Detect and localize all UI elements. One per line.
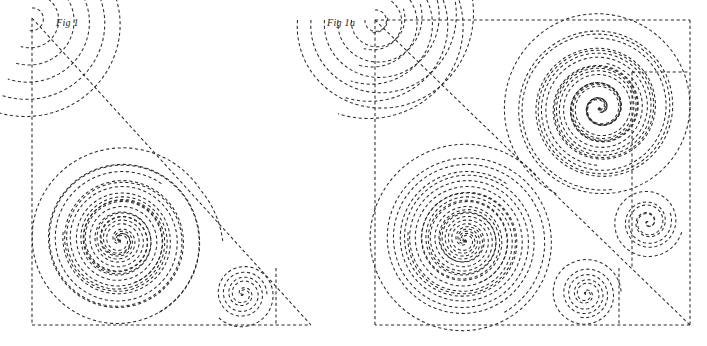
fig-1a-large-spiral-upper-right (504, 14, 690, 194)
fig-1-small-spiral-turn-1 (223, 272, 267, 311)
fig-1-large-spiral-turn-1 (48, 164, 199, 313)
fig-1a-corner-arc-3 (351, 0, 433, 84)
fig-1-graphic (0, 0, 311, 327)
fig-1a-small-spiral-bottom-turn-1 (569, 275, 608, 318)
fig-1a-corner-arc-4 (344, 0, 447, 101)
fig-1a-corner-arc-5 (338, 0, 463, 118)
figure-page: Fig 1 Fig 1a (0, 0, 707, 346)
fig-1a-graphic (297, 0, 690, 331)
fig-1-caption: Fig 1 (56, 17, 79, 28)
fig-1a-large-spiral-lower-left-turn-2 (400, 171, 522, 301)
fig-1a-corner-arc-1 (364, 0, 402, 50)
fig-1a-small-spiral-right (615, 191, 682, 256)
fig-1a-large-spiral-upper-right-turn-4 (564, 63, 643, 147)
fig-1-small-spiral (218, 267, 273, 327)
fig-1a-small-spiral-bottom (553, 260, 621, 325)
fig-1-corner-arc-2 (14, 0, 74, 65)
fig-1-large-spiral-turn-2 (55, 171, 177, 301)
fig-1a-caption: Fig 1a (327, 17, 355, 28)
figure-artwork-canvas (0, 0, 707, 346)
fig-1a-corner-arc-2 (357, 0, 417, 67)
fig-1a-large-spiral-lower-left-turn-1 (393, 164, 544, 313)
